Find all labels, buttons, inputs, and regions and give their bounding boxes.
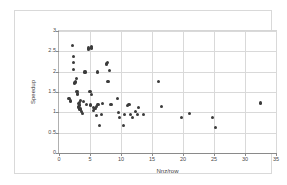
gridline-vertical: [214, 31, 215, 153]
scatter-point: [180, 116, 183, 119]
scatter-point: [137, 106, 140, 109]
x-axis-tick-label: 10: [118, 157, 124, 163]
scatter-point: [75, 77, 78, 80]
scatter-point: [157, 80, 160, 83]
scatter-point: [90, 46, 93, 49]
scatter-point: [100, 113, 103, 116]
y-axis-tickmark: [56, 92, 59, 93]
chart-figure: 00.511.522.5305101520253035 Nnz/row Spee…: [0, 0, 287, 185]
scatter-point: [131, 116, 134, 119]
y-axis-tickmark: [56, 72, 59, 73]
scatter-point: [98, 124, 101, 127]
x-axis-tick-label: 5: [88, 157, 91, 163]
scatter-point: [142, 113, 145, 116]
y-axis-tick-label: 1: [53, 110, 56, 116]
scatter-point: [117, 111, 120, 114]
gridline-vertical: [121, 31, 122, 153]
gridline-horizontal: [59, 51, 276, 52]
y-axis-tick-label: 2: [53, 69, 56, 75]
y-axis-tickmark: [56, 133, 59, 134]
scatter-point: [95, 114, 98, 117]
scatter-point: [74, 81, 77, 84]
gridline-vertical: [183, 31, 184, 153]
plot-area: 00.511.522.5305101520253035: [58, 30, 277, 154]
scatter-point: [188, 112, 191, 115]
scatter-point: [123, 113, 126, 116]
x-axis-title: Nnz/row: [58, 168, 277, 174]
x-axis-tick-label: 30: [242, 157, 248, 163]
gridline-horizontal: [59, 72, 276, 73]
scatter-point: [72, 55, 75, 58]
gridline-horizontal: [59, 112, 276, 113]
y-axis-tickmark: [56, 51, 59, 52]
scatter-point: [71, 44, 74, 47]
x-axis-tick-label: 25: [211, 157, 217, 163]
scatter-point: [96, 70, 99, 73]
scatter-point: [72, 61, 75, 64]
scatter-point: [122, 124, 125, 127]
y-axis-tickmark: [56, 112, 59, 113]
scatter-point: [259, 101, 262, 104]
x-axis-tick-label: 20: [180, 157, 186, 163]
scatter-point: [69, 99, 72, 102]
gridline-vertical: [276, 31, 277, 153]
scatter-point: [106, 61, 109, 64]
chart-frame: 00.511.522.5305101520253035 Nnz/row Spee…: [14, 10, 272, 174]
y-axis-tick-label: 3: [53, 28, 56, 34]
scatter-point: [76, 92, 79, 95]
scatter-point: [109, 103, 112, 106]
y-axis-title: Speedup: [30, 80, 36, 104]
scatter-point: [81, 112, 84, 115]
gridline-horizontal: [59, 31, 276, 32]
x-axis-tick-label: 0: [57, 157, 60, 163]
scatter-point: [90, 93, 93, 96]
scatter-point: [85, 103, 88, 106]
y-axis-tick-label: 0.5: [48, 130, 56, 136]
x-axis-tick-label: 15: [149, 157, 155, 163]
scatter-point: [127, 103, 130, 106]
x-axis-tick-label: 35: [273, 157, 279, 163]
y-axis-tick-label: 2.5: [48, 49, 56, 55]
scatter-point: [214, 126, 217, 129]
scatter-point: [96, 103, 99, 106]
scatter-point: [83, 70, 86, 73]
gridline-vertical: [152, 31, 153, 153]
scatter-point: [118, 116, 121, 119]
gridline-vertical: [245, 31, 246, 153]
scatter-point: [108, 69, 111, 72]
y-axis-tickmark: [56, 31, 59, 32]
scatter-point: [160, 105, 163, 108]
y-axis-tick-label: 0: [53, 150, 56, 156]
scatter-point: [116, 97, 119, 100]
scatter-point: [136, 113, 139, 116]
scatter-point: [101, 102, 104, 105]
y-axis-tick-label: 1.5: [48, 89, 56, 95]
gridline-horizontal: [59, 133, 276, 134]
scatter-point: [106, 80, 109, 83]
